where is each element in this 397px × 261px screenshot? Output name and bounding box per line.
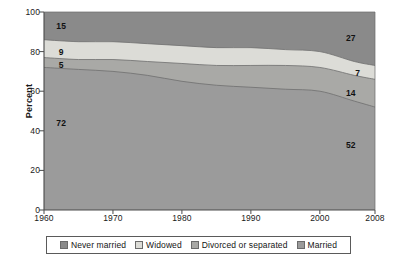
chart-legend: Never married Widowed Divorced or separa…	[46, 236, 351, 254]
value-label-widowed-left: 9	[59, 47, 64, 57]
legend-item-divorced-or-separated[interactable]: Divorced or separated	[191, 240, 288, 250]
x-tick-2008: 2008	[365, 213, 384, 223]
value-label-married-right: 52	[346, 140, 356, 150]
legend-item-widowed[interactable]: Widowed	[135, 240, 182, 250]
legend-label-married: Married	[308, 240, 338, 250]
x-tick-2000: 2000	[310, 213, 329, 223]
legend-swatch-married	[297, 241, 305, 249]
value-label-married-left: 72	[56, 118, 66, 128]
value-label-divorced-or-separated-right: 14	[346, 88, 356, 98]
value-label-widowed-right: 7	[355, 68, 360, 78]
legend-swatch-divorced-or-separated	[191, 241, 199, 249]
x-axis-ticks: 196019701980199020002008	[0, 213, 397, 227]
legend-label-never-married: Never married	[71, 240, 126, 250]
value-label-never-married-left: 15	[56, 21, 66, 31]
area-bands	[44, 12, 375, 210]
value-label-divorced-or-separated-left: 5	[59, 60, 64, 70]
x-tick-1990: 1990	[241, 213, 260, 223]
x-tick-1980: 1980	[172, 213, 191, 223]
x-tick-1960: 1960	[34, 213, 53, 223]
stacked-area-chart: Percent 100 80 60 40 20 0	[0, 0, 397, 261]
legend-item-never-married[interactable]: Never married	[60, 240, 126, 250]
x-tick-1970: 1970	[103, 213, 122, 223]
legend-label-divorced-or-separated: Divorced or separated	[202, 240, 288, 250]
legend-item-married[interactable]: Married	[297, 240, 338, 250]
value-label-never-married-right: 27	[346, 33, 356, 43]
legend-swatch-never-married	[60, 241, 68, 249]
legend-swatch-widowed	[135, 241, 143, 249]
legend-label-widowed: Widowed	[146, 240, 182, 250]
